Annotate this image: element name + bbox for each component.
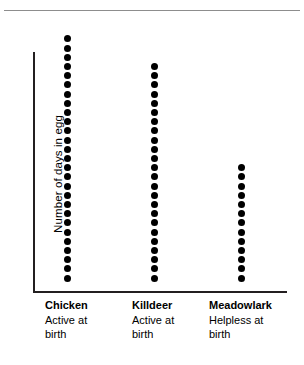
data-dot	[151, 100, 158, 107]
category-description-line2: birth	[45, 327, 129, 342]
data-dot	[64, 201, 71, 208]
category-name: Killdeer	[132, 298, 216, 313]
data-dot	[64, 100, 71, 107]
data-dot	[151, 137, 158, 144]
data-dot	[64, 155, 71, 162]
category-name: Meadowlark	[209, 298, 304, 313]
data-dot	[64, 81, 71, 88]
data-dot	[151, 265, 158, 272]
data-dot	[64, 137, 71, 144]
data-dot	[151, 118, 158, 125]
data-dot	[238, 173, 245, 180]
data-dot	[64, 238, 71, 245]
data-dot	[64, 35, 71, 42]
data-dot	[238, 247, 245, 254]
data-dot	[64, 63, 71, 70]
data-dot	[238, 256, 245, 263]
data-dot	[64, 164, 71, 171]
data-dot	[151, 63, 158, 70]
data-dot	[64, 127, 71, 134]
category-description-line2: birth	[132, 327, 216, 342]
data-dot	[151, 219, 158, 226]
data-dot	[151, 256, 158, 263]
data-dot	[64, 91, 71, 98]
data-dot	[238, 164, 245, 171]
y-axis-line	[33, 52, 35, 293]
category-label-killdeer: Killdeer Active at birth	[132, 298, 216, 342]
data-dot	[238, 192, 245, 199]
data-dot	[64, 54, 71, 61]
data-dot	[64, 72, 71, 79]
data-dot	[151, 91, 158, 98]
data-dot	[151, 210, 158, 217]
category-label-chicken: Chicken Active at birth	[45, 298, 129, 342]
data-dot	[151, 192, 158, 199]
data-dot	[238, 275, 245, 282]
category-description-line2: birth	[209, 327, 304, 342]
data-dot	[64, 210, 71, 217]
data-dot	[151, 247, 158, 254]
data-dot	[64, 229, 71, 236]
data-dot	[238, 265, 245, 272]
data-dot	[64, 183, 71, 190]
data-dot	[64, 265, 71, 272]
data-dot	[238, 229, 245, 236]
data-dot	[151, 81, 158, 88]
data-dot	[151, 229, 158, 236]
data-dot	[151, 146, 158, 153]
category-description-line1: Active at	[132, 313, 216, 328]
data-dot	[238, 238, 245, 245]
data-dot	[64, 173, 71, 180]
data-dot	[151, 155, 158, 162]
data-dot	[64, 109, 71, 116]
data-dot	[238, 219, 245, 226]
data-dot	[64, 275, 71, 282]
category-label-meadowlark: Meadowlark Helpless at birth	[209, 298, 304, 342]
category-description-line1: Active at	[45, 313, 129, 328]
data-dot	[64, 247, 71, 254]
data-dot	[238, 201, 245, 208]
data-dot	[64, 146, 71, 153]
data-dot	[151, 275, 158, 282]
data-dot	[64, 192, 71, 199]
data-dot	[64, 256, 71, 263]
data-dot	[151, 72, 158, 79]
data-dot	[238, 183, 245, 190]
category-name: Chicken	[45, 298, 129, 313]
data-dot	[64, 45, 71, 52]
data-dot	[151, 183, 158, 190]
data-dot	[151, 109, 158, 116]
data-dot	[151, 127, 158, 134]
data-dot	[151, 164, 158, 171]
data-dot	[151, 238, 158, 245]
category-description-line1: Helpless at	[209, 313, 304, 328]
dot-plot-figure: Number of days in egg Chicken Active at …	[0, 0, 304, 365]
data-dot	[238, 210, 245, 217]
data-dot	[64, 118, 71, 125]
data-dot	[64, 219, 71, 226]
data-dot	[151, 201, 158, 208]
data-dot	[151, 173, 158, 180]
